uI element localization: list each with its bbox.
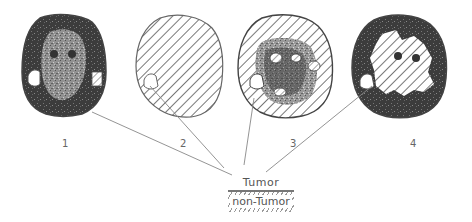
panel-label-1: 1 xyxy=(62,138,68,149)
panel-label-3: 3 xyxy=(290,138,296,149)
legend-non-tumor-label: non-Tumor xyxy=(230,195,292,208)
legend-non-tumor-swatch: non-Tumor xyxy=(228,192,294,212)
brain-slice-4 xyxy=(352,15,446,118)
leader-lines xyxy=(92,86,372,175)
brain-slice-3 xyxy=(238,15,332,118)
legend-tumor-label: Tumor xyxy=(228,176,294,189)
legend: Tumor non-Tumor xyxy=(228,176,294,212)
brain-slice-2 xyxy=(136,15,223,117)
panel-label-4: 4 xyxy=(410,138,416,149)
panel-label-2: 2 xyxy=(180,138,186,149)
brain-slice-1 xyxy=(22,15,106,117)
